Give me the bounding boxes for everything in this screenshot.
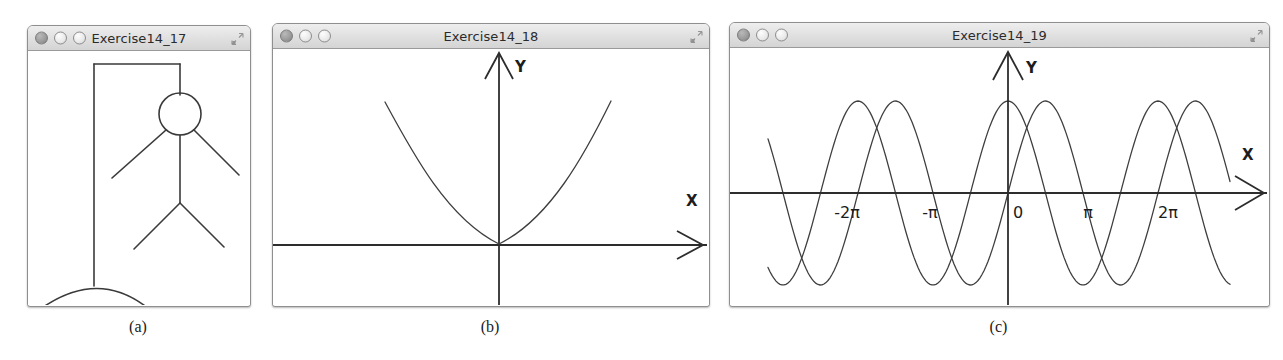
tick-label-minus-2pi: -2π bbox=[834, 203, 860, 222]
right-arm bbox=[194, 130, 239, 175]
minimize-button[interactable] bbox=[299, 30, 312, 43]
base-arc bbox=[35, 288, 149, 305]
close-button[interactable] bbox=[737, 29, 750, 42]
titlebar[interactable]: Exercise14_19 bbox=[730, 23, 1269, 48]
close-button[interactable] bbox=[280, 30, 293, 43]
x-axis-label: X bbox=[686, 192, 698, 210]
y-axis-label: Y bbox=[514, 58, 527, 76]
x-axis-label: X bbox=[1242, 146, 1254, 164]
sine-cosine-chart: X Y -2π -π 0 π 2π bbox=[730, 48, 1267, 305]
canvas-hangman bbox=[28, 51, 250, 305]
parabola-curve bbox=[385, 101, 611, 244]
caption-a: (a) bbox=[27, 318, 249, 336]
caption-c: (c) bbox=[729, 318, 1268, 336]
y-axis-label: Y bbox=[1025, 59, 1038, 77]
figure-row: Exercise14_17 bbox=[0, 0, 1283, 360]
zoom-button[interactable] bbox=[73, 32, 86, 45]
titlebar[interactable]: Exercise14_18 bbox=[273, 24, 709, 49]
zoom-button[interactable] bbox=[775, 29, 788, 42]
right-leg bbox=[180, 203, 224, 247]
window-exercise14-17[interactable]: Exercise14_17 bbox=[27, 25, 251, 307]
head bbox=[159, 93, 201, 135]
window-exercise14-18[interactable]: Exercise14_18 X Y bbox=[272, 23, 710, 307]
zoom-button[interactable] bbox=[318, 30, 331, 43]
left-leg bbox=[134, 203, 180, 249]
titlebar[interactable]: Exercise14_17 bbox=[28, 26, 250, 51]
window-controls bbox=[737, 29, 788, 42]
left-arm bbox=[112, 130, 166, 178]
minimize-button[interactable] bbox=[54, 32, 67, 45]
window-title: Exercise14_19 bbox=[730, 28, 1269, 43]
tick-label-pi: π bbox=[1083, 203, 1093, 222]
window-title: Exercise14_18 bbox=[273, 29, 709, 44]
tick-label-zero: 0 bbox=[1013, 203, 1023, 222]
canvas-parabola: X Y bbox=[273, 49, 709, 305]
minimize-button[interactable] bbox=[756, 29, 769, 42]
resize-grip-icon[interactable] bbox=[231, 32, 244, 45]
window-exercise14-19[interactable]: Exercise14_19 X bbox=[729, 22, 1270, 307]
caption-b: (b) bbox=[272, 318, 708, 336]
canvas-sine-cosine: X Y -2π -π 0 π 2π bbox=[730, 48, 1269, 305]
tick-label-minus-pi: -π bbox=[922, 203, 938, 222]
resize-grip-icon[interactable] bbox=[1250, 29, 1263, 42]
resize-grip-icon[interactable] bbox=[690, 30, 703, 43]
hangman-drawing bbox=[28, 51, 248, 305]
tick-label-2pi: 2π bbox=[1158, 203, 1178, 222]
window-controls bbox=[280, 30, 331, 43]
window-controls bbox=[35, 32, 86, 45]
parabola-chart: X Y bbox=[273, 49, 707, 305]
close-button[interactable] bbox=[35, 32, 48, 45]
